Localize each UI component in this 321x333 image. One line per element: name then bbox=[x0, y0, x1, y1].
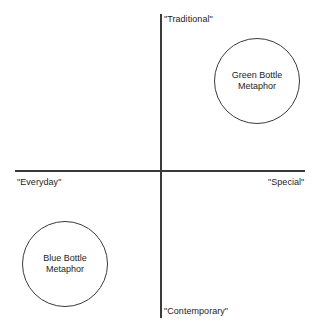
bubble-label-green-bottle: Green Bottle Metaphor bbox=[232, 70, 283, 93]
bubble-green-bottle-metaphor: Green Bottle Metaphor bbox=[214, 38, 300, 124]
bubble-blue-bottle-metaphor: Blue Bottle Metaphor bbox=[22, 221, 108, 307]
axis-label-special: "Special" bbox=[268, 177, 304, 187]
axis-label-traditional: "Traditional" bbox=[164, 14, 213, 24]
axis-label-contemporary: "Contemporary" bbox=[164, 306, 228, 316]
vertical-axis-line bbox=[160, 14, 162, 318]
positioning-map: "Traditional" "Contemporary" "Everyday" … bbox=[0, 0, 321, 333]
bubble-label-blue-bottle: Blue Bottle Metaphor bbox=[43, 253, 87, 276]
axis-label-everyday: "Everyday" bbox=[17, 177, 61, 187]
horizontal-axis-line bbox=[15, 170, 305, 172]
